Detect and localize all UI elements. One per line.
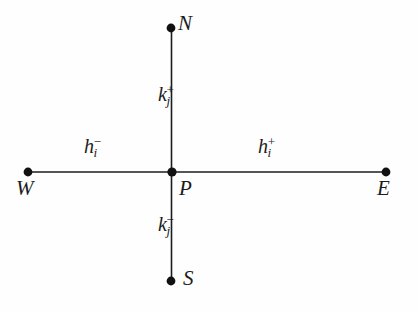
edge-label-k-plus-superscript: + bbox=[167, 82, 174, 97]
node-south bbox=[167, 277, 176, 286]
edge-label-h-minus-superscript: − bbox=[94, 134, 101, 149]
stencil-diagram: N S W E P kj+ kj− hi− hi+ bbox=[0, 0, 418, 311]
edge-label-k-minus: kj− bbox=[158, 214, 178, 234]
node-center-p bbox=[167, 167, 176, 176]
stencil-canvas bbox=[0, 0, 418, 311]
node-north bbox=[167, 24, 176, 33]
node-label-north: N bbox=[178, 13, 192, 34]
edge-label-h-plus: hi+ bbox=[258, 136, 279, 156]
edge-label-h-plus-superscript: + bbox=[268, 134, 275, 149]
node-label-west: W bbox=[16, 178, 34, 199]
node-label-center-p: P bbox=[179, 178, 192, 199]
node-label-east: E bbox=[377, 178, 390, 199]
edge-label-k-minus-superscript: − bbox=[167, 212, 174, 227]
edge-label-k-plus: kj+ bbox=[158, 84, 178, 104]
node-label-south: S bbox=[183, 268, 194, 289]
edge-label-h-minus: hi− bbox=[84, 136, 105, 156]
